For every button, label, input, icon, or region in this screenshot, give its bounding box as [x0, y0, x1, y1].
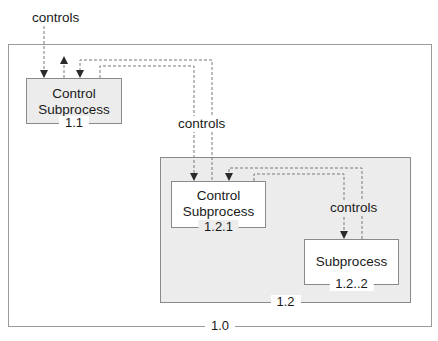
controls-label-middle: controls [176, 116, 227, 132]
control-flow-wires [0, 0, 438, 341]
arrow-down-icon [225, 173, 233, 181]
arrow-down-icon [76, 70, 84, 78]
arrow-down-icon [190, 173, 198, 181]
arrow-up-icon [60, 56, 68, 64]
controls-label-inner: controls [328, 200, 379, 216]
arrow-down-icon [340, 231, 348, 239]
arrow-down-icon [40, 70, 48, 78]
controls-label-top: controls [32, 10, 79, 26]
